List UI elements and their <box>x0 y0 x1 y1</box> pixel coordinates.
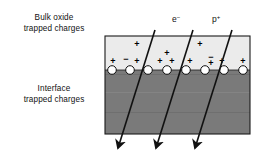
oxide-charge-plus-g: + <box>169 56 174 66</box>
proton-label-sup: + <box>217 14 221 20</box>
oxide-charge-plus-d: + <box>110 56 115 66</box>
interface-circle-1 <box>108 66 117 75</box>
electron-label-sup: − <box>177 14 181 20</box>
oxide-charge-plus-h: + <box>187 56 192 66</box>
oxide-charge-plus-b: + <box>197 39 202 49</box>
interface-circle-4 <box>163 66 172 75</box>
oxide-charge-minus-a: − <box>123 54 128 64</box>
interface-circle-5 <box>182 66 191 75</box>
oxide-charge-plus-i: + <box>208 58 213 68</box>
oxide-charge-plus-f: + <box>157 56 162 66</box>
interface-circle-8 <box>239 66 248 75</box>
oxide-charge-plus-e: + <box>134 56 139 66</box>
oxide-charge-plus-k: + <box>240 56 245 66</box>
electron-track-label: e− <box>172 14 181 25</box>
interface-circle-3 <box>144 66 153 75</box>
mos-oxide-interface-diagram: + + + + − + + + + − + + + e− p+ <box>0 0 264 156</box>
proton-track-label: p+ <box>212 14 221 25</box>
interface-circle-2 <box>126 66 135 75</box>
figure-container: Bulk oxide trapped charges Interface tra… <box>0 0 264 156</box>
oxide-charge-plus-a: + <box>134 39 139 49</box>
